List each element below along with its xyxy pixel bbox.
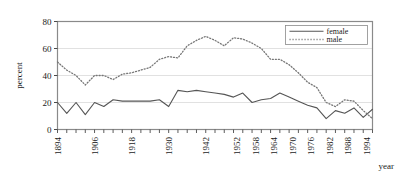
x-tick-label-1982: 1982 xyxy=(325,137,335,155)
x-tick-label-1994: 1994 xyxy=(362,137,372,156)
chart-legend: femalemale xyxy=(286,26,368,45)
x-tick-label-1894: 1894 xyxy=(53,137,63,156)
x-axis-title: year xyxy=(379,161,395,171)
x-tick-label-1964: 1964 xyxy=(269,137,279,156)
x-tick-label-1958: 1958 xyxy=(251,137,261,156)
x-tick-label-1906: 1906 xyxy=(90,137,100,156)
y-tick-label-20: 20 xyxy=(43,98,53,108)
y-tick-label-40: 40 xyxy=(43,71,53,81)
y-axis-title: percent xyxy=(14,62,24,89)
series-line-female xyxy=(58,90,373,118)
x-tick-label-1930: 1930 xyxy=(164,137,174,156)
x-tick-label-1988: 1988 xyxy=(343,137,353,156)
x-tick-label-1952: 1952 xyxy=(232,137,242,155)
x-tick-label-1942: 1942 xyxy=(201,137,211,155)
y-tick-label-0: 0 xyxy=(47,125,52,135)
x-tick-label-1970: 1970 xyxy=(288,137,298,156)
legend-label-male: male xyxy=(327,35,343,44)
x-axis-ticks: 1894190619181930194219521958196419701976… xyxy=(53,130,373,156)
y-axis-ticks: 020406080 xyxy=(43,17,58,135)
x-tick-label-1918: 1918 xyxy=(127,137,137,156)
y-tick-label-60: 60 xyxy=(43,44,53,54)
chart-page: 020406080 189419061918193019421952195819… xyxy=(0,0,416,176)
x-tick-label-1976: 1976 xyxy=(306,137,316,156)
y-tick-label-80: 80 xyxy=(43,17,53,27)
line-chart: 020406080 189419061918193019421952195819… xyxy=(0,0,416,176)
